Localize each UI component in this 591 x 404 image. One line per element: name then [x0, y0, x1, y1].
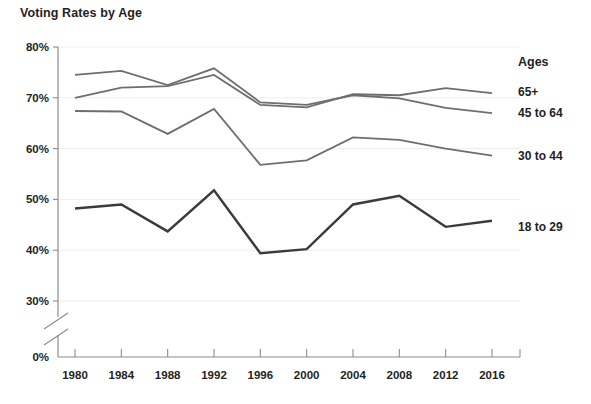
line-chart-svg: 80%70%60%50%40%30%0% 1980198419881992199… [0, 0, 591, 404]
legend-item-65-plus: 65+ [518, 86, 538, 98]
y-tick-label: 70% [26, 92, 49, 104]
x-tick-label: 2016 [479, 369, 505, 381]
x-tick-label: 2008 [387, 369, 413, 381]
y-tick-label: 40% [26, 244, 49, 256]
x-tick-label: 2000 [294, 369, 320, 381]
gridlines [58, 47, 520, 301]
series-line-30-to-44 [75, 109, 492, 165]
x-tick-label: 1984 [109, 369, 135, 381]
y-tick-label: 60% [26, 143, 49, 155]
legend-title: Ages [518, 56, 591, 69]
y-tick-label: 30% [26, 295, 49, 307]
legend-item-18-to-29: 18 to 29 [518, 221, 563, 233]
x-tick-label: 1988 [155, 369, 181, 381]
x-axis [58, 349, 520, 357]
x-tick-label: 1980 [62, 369, 88, 381]
y-tick-labels: 80%70%60%50%40%30%0% [26, 41, 49, 363]
y-tick-label: 0% [32, 351, 49, 363]
x-tick-label: 1996 [248, 369, 274, 381]
x-tick-label: 2004 [340, 369, 366, 381]
plot-area: 80%70%60%50%40%30%0% 1980198419881992199… [0, 0, 591, 404]
x-tick-label: 1992 [201, 369, 227, 381]
series-lines [75, 68, 492, 253]
legend-item-30-to-44: 30 to 44 [518, 150, 563, 162]
y-tick-label: 80% [26, 41, 49, 53]
chart-root: Voting Rates by Age 80%70%60%50%40%30%0%… [0, 0, 591, 404]
x-tick-label: 2012 [433, 369, 459, 381]
x-tick-labels: 1980198419881992199620002004200820122016 [62, 369, 505, 381]
legend-item-45-to-64: 45 to 64 [518, 107, 563, 119]
chart-legend: Ages 65+ 45 to 64 30 to 44 18 to 29 [518, 56, 591, 78]
y-tick-label: 50% [26, 193, 49, 205]
series-line-65 [75, 75, 492, 108]
